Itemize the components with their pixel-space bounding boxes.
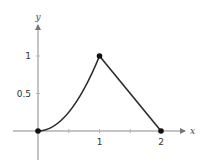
linear-segment — [100, 56, 162, 131]
point-end — [158, 128, 164, 134]
x-tick-label-1: 1 — [97, 137, 103, 147]
x-tick-label-2: 2 — [158, 137, 164, 147]
point-peak — [97, 53, 103, 59]
y-axis-label: y — [35, 12, 42, 22]
function-plot: 1 2 0.5 1 x y — [0, 0, 205, 167]
parabola-segment — [38, 56, 100, 131]
point-origin — [35, 128, 41, 134]
y-tick-label-1: 1 — [25, 51, 31, 61]
x-axis-label: x — [190, 126, 195, 136]
y-tick-label-0.5: 0.5 — [17, 89, 31, 99]
